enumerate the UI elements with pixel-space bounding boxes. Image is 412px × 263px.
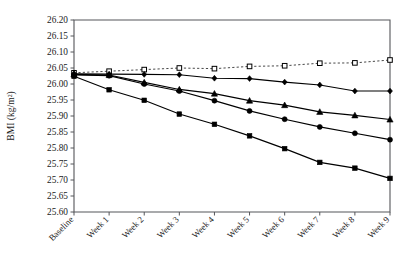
series-marker: [212, 122, 217, 127]
x-tick-label: Week 3: [155, 214, 181, 240]
series-marker: [317, 82, 322, 88]
series-marker: [247, 108, 252, 113]
series-marker: [212, 66, 217, 71]
y-tick-label: 25.95: [47, 95, 68, 105]
y-tick-label: 25.90: [47, 111, 68, 121]
x-tick-label: Week 7: [295, 214, 321, 240]
series-marker: [247, 134, 252, 139]
x-tick-label: Week 9: [366, 214, 392, 240]
series-marker: [247, 64, 252, 69]
series-marker: [388, 176, 393, 181]
series-line: [74, 60, 390, 73]
series-marker: [72, 74, 77, 79]
series-marker: [388, 58, 393, 63]
y-tick-label: 25.65: [47, 191, 68, 201]
series-marker: [247, 76, 252, 82]
y-tick-label: 25.70: [47, 175, 68, 185]
series-marker: [282, 117, 287, 122]
series-marker: [317, 160, 322, 165]
x-tick-label: Week 5: [225, 214, 251, 240]
chart-canvas: 26.2026.1526.1026.0526.0025.9525.9025.85…: [0, 0, 412, 263]
data-series: [72, 58, 393, 75]
series-marker: [353, 166, 358, 171]
series-marker: [177, 72, 182, 78]
series-marker: [142, 82, 147, 87]
bmi-line-chart: 26.2026.1526.1026.0526.0025.9525.9025.85…: [0, 0, 412, 263]
plot-border: [74, 20, 390, 212]
y-tick-label: 25.60: [47, 207, 68, 217]
x-tick-label: Baseline: [47, 214, 76, 243]
data-series: [72, 71, 393, 94]
series-marker: [388, 88, 393, 94]
series-marker: [107, 87, 112, 92]
x-tick-label: Week 4: [190, 214, 216, 240]
series-marker: [317, 61, 322, 66]
y-tick-label: 25.80: [47, 143, 68, 153]
y-axis-tick-labels: 26.2026.1526.1026.0526.0025.9525.9025.85…: [47, 15, 68, 217]
series-line: [74, 74, 390, 91]
y-tick-label: 26.20: [47, 15, 68, 25]
series-marker: [177, 112, 182, 117]
y-tick-label: 26.15: [47, 31, 68, 41]
x-tick-label: Week 6: [260, 214, 286, 240]
series-marker: [212, 75, 217, 81]
series-marker: [282, 146, 287, 151]
data-series: [72, 73, 393, 143]
series-line: [74, 76, 390, 178]
series-marker: [317, 124, 322, 129]
series-marker: [142, 98, 147, 103]
data-series: [72, 74, 393, 181]
data-series-layer: [71, 58, 393, 181]
series-marker: [388, 137, 393, 142]
series-marker: [352, 88, 357, 94]
y-axis-title: BMI (kg/m²): [5, 91, 17, 141]
series-marker: [212, 98, 217, 103]
x-tick-label: Week 8: [330, 214, 356, 240]
series-marker: [282, 63, 287, 68]
x-tick-label: Week 2: [120, 214, 146, 240]
series-marker: [353, 61, 358, 66]
series-marker: [177, 66, 182, 71]
y-tick-label: 26.00: [47, 79, 68, 89]
x-axis-tick-labels: BaselineWeek 1Week 2Week 3Week 4Week 5We…: [47, 214, 392, 243]
y-tick-label: 26.05: [47, 63, 68, 73]
series-marker: [177, 89, 182, 94]
y-tick-label: 26.10: [47, 47, 68, 57]
y-tick-label: 25.75: [47, 159, 68, 169]
plot-frame: [74, 20, 390, 212]
y-tick-label: 25.85: [47, 127, 68, 137]
series-marker: [352, 131, 357, 136]
series-marker: [282, 79, 287, 85]
x-tick-label: Week 1: [85, 214, 111, 240]
series-line: [74, 74, 390, 119]
series-marker: [107, 73, 112, 78]
